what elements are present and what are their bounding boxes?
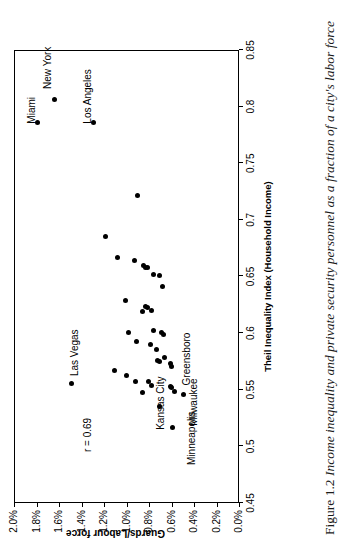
scatter-point-label: Las Vegas xyxy=(69,329,80,376)
x-tick-mark xyxy=(239,106,243,107)
x-axis-title: Theil Inequality Index (Household Income… xyxy=(262,50,273,503)
figure-caption-panel: Figure 1.2 Income inequality and private… xyxy=(300,0,359,556)
scatter-point xyxy=(69,381,74,386)
scatter-point xyxy=(124,373,129,378)
y-axis-title: Guards/Labour force xyxy=(46,528,186,539)
scatter-point xyxy=(115,255,120,260)
y-tick-mark xyxy=(104,503,105,507)
figure-number: Figure 1.2 xyxy=(322,479,337,535)
scatter-point xyxy=(112,368,117,373)
scatter-point xyxy=(123,298,128,303)
x-tick-mark xyxy=(239,332,243,333)
y-tick-mark xyxy=(14,503,15,507)
scatter-point-label: Kansas City xyxy=(155,376,166,429)
scatter-point xyxy=(162,355,167,360)
scatter-point xyxy=(160,284,165,289)
scatter-point xyxy=(52,97,57,102)
scatter-point xyxy=(141,263,146,268)
y-tick-mark xyxy=(172,503,173,507)
y-tick-label: 1.8% xyxy=(31,510,42,556)
x-tick-label: 0.6 xyxy=(245,313,256,353)
x-tick-mark xyxy=(239,389,243,390)
y-tick-mark xyxy=(82,503,83,507)
y-tick-label: 0.0% xyxy=(233,510,244,556)
scatter-point xyxy=(161,332,166,337)
correlation-annotation: r = 0.69 xyxy=(82,418,93,452)
y-tick-mark xyxy=(127,503,128,507)
scatter-point xyxy=(140,309,145,314)
scatter-point xyxy=(157,359,162,364)
scatter-point-label: Milwaukee xyxy=(188,378,199,425)
y-tick-mark xyxy=(194,503,195,507)
rotated-chart-canvas: 0.450.50.550.60.650.70.750.80.85 0.0%0.2… xyxy=(0,0,300,556)
y-tick-mark xyxy=(149,503,150,507)
x-tick-label: 0.45 xyxy=(245,483,256,523)
y-tick-label: 2.0% xyxy=(8,510,19,556)
figure-caption: Figure 1.2 Income inequality and private… xyxy=(318,0,342,556)
x-tick-label: 0.8 xyxy=(245,87,256,127)
y-tick-label: 0.2% xyxy=(211,510,222,556)
x-tick-label: 0.7 xyxy=(245,200,256,240)
y-tick-mark xyxy=(239,503,240,507)
y-tick-mark xyxy=(217,503,218,507)
scatter-point xyxy=(149,308,154,313)
y-tick-mark xyxy=(59,503,60,507)
x-tick-label: 0.65 xyxy=(245,257,256,297)
scatter-point xyxy=(149,383,154,388)
chart-inner: 0.450.50.550.60.650.70.750.80.85 0.0%0.2… xyxy=(0,0,300,556)
scatter-point xyxy=(170,425,175,430)
scatter-point xyxy=(133,379,138,384)
scatter-point xyxy=(145,265,150,270)
scatter-point xyxy=(148,342,153,347)
x-tick-mark xyxy=(239,445,243,446)
scatter-point xyxy=(103,235,108,240)
x-tick-label: 0.5 xyxy=(245,426,256,466)
scatter-point xyxy=(140,390,145,395)
x-tick-mark xyxy=(239,219,243,220)
scatter-point xyxy=(169,364,174,369)
scatter-point-label: Miami xyxy=(26,97,37,124)
x-tick-label: 0.75 xyxy=(245,143,256,183)
scatter-point-label: New York xyxy=(42,47,53,89)
scatter-point xyxy=(135,193,140,198)
scatter-point xyxy=(157,273,162,278)
figure-panel: 0.450.50.550.60.650.70.750.80.85 0.0%0.2… xyxy=(0,0,300,556)
scatter-point xyxy=(126,330,131,335)
scatter-point xyxy=(151,329,156,334)
scatter-point xyxy=(132,258,137,263)
y-tick-label: 0.4% xyxy=(188,510,199,556)
x-tick-label: 0.55 xyxy=(245,370,256,410)
scatter-point-label: Greensboro xyxy=(181,333,192,386)
plot-area xyxy=(14,50,239,503)
figure-caption-text: Income inequality and private security p… xyxy=(322,21,337,476)
scatter-point xyxy=(172,389,177,394)
x-tick-mark xyxy=(239,162,243,163)
scatter-point xyxy=(151,272,156,277)
y-tick-mark xyxy=(37,503,38,507)
scatter-point xyxy=(181,392,186,397)
scatter-point xyxy=(134,339,139,344)
scatter-point-label: Los Angeles xyxy=(82,69,93,124)
x-tick-mark xyxy=(239,276,243,277)
scatter-point xyxy=(154,347,159,352)
x-tick-label: 0.85 xyxy=(245,30,256,70)
x-tick-mark xyxy=(239,49,243,50)
